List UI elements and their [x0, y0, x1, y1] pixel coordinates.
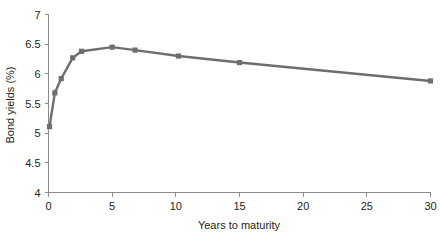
- x-axis-tick-label: 10: [170, 200, 182, 212]
- data-point-marker: [79, 49, 84, 54]
- y-axis-tick-label: 5.5: [25, 98, 40, 110]
- x-axis-tick-label: 0: [45, 200, 51, 212]
- data-series-group: [47, 45, 433, 130]
- data-point-marker: [132, 48, 137, 53]
- y-axis-title: Bond yields (%): [4, 66, 16, 143]
- y-axis-tick-label: 4.5: [25, 157, 40, 169]
- data-point-marker: [52, 90, 57, 95]
- x-axis-title: Years to maturity: [198, 219, 281, 231]
- data-point-marker: [47, 124, 52, 129]
- y-axis: 44.555.566.57: [25, 9, 48, 199]
- data-point-marker: [237, 60, 242, 65]
- data-point-marker: [428, 78, 433, 83]
- y-axis-tick-label: 7: [34, 9, 40, 21]
- y-axis-tick-label: 6: [34, 68, 40, 80]
- data-point-marker: [176, 53, 181, 58]
- x-axis-tick-label: 15: [233, 200, 245, 212]
- bond-yield-curve-chart: 44.555.566.57 051015202530 Years to matu…: [0, 0, 440, 235]
- data-point-marker: [110, 45, 115, 50]
- x-axis-tick-label: 25: [361, 200, 373, 212]
- y-axis-tick-label: 4: [34, 187, 40, 199]
- x-axis: 051015202530: [45, 193, 436, 212]
- y-axis-tick-label: 5: [34, 127, 40, 139]
- x-axis-tick-label: 30: [424, 200, 436, 212]
- chart-plot-area: 44.555.566.57 051015202530 Years to matu…: [0, 0, 440, 235]
- y-axis-tick-label: 6.5: [25, 38, 40, 50]
- x-axis-tick-label: 20: [297, 200, 309, 212]
- series-line: [50, 47, 431, 127]
- data-point-marker: [70, 55, 75, 60]
- data-point-marker: [59, 76, 64, 81]
- x-axis-tick-label: 5: [109, 200, 115, 212]
